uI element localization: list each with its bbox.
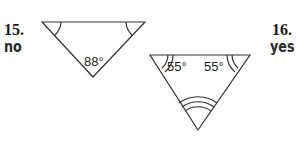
angle-arc-top-right <box>126 22 132 35</box>
angle-arc-top-left <box>55 22 61 35</box>
angle-arc-bottom-1 <box>185 107 211 111</box>
angle-label-88: 88° <box>84 54 104 69</box>
figures: 88° 55° 55° <box>0 0 302 146</box>
triangle-16 <box>150 55 250 130</box>
angle-label-55-left: 55° <box>167 59 187 74</box>
angle-arc-top-right-1 <box>232 55 238 68</box>
angle-label-55-right: 55° <box>204 59 224 74</box>
